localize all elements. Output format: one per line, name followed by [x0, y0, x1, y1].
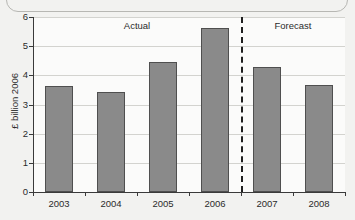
y-axis-tick-label: 2: [0, 129, 28, 139]
y-axis-tick-mark: [29, 75, 33, 76]
x-axis-tick-label: 2004: [85, 199, 137, 209]
bar: [201, 28, 228, 192]
plot-area: [33, 17, 345, 192]
x-axis-tick-mark: [189, 192, 190, 196]
chart-screenshot: £ billion 2006 0123456 20032004200520062…: [0, 0, 355, 220]
bar: [253, 67, 280, 192]
y-axis-tick-label: 3: [0, 100, 28, 110]
x-axis-tick-mark: [85, 192, 86, 196]
gridline: [33, 17, 345, 18]
y-axis-tick-mark: [29, 17, 33, 18]
y-axis-tick-label: 4: [0, 70, 28, 80]
x-axis-tick-label: 2008: [293, 199, 345, 209]
x-axis-tick-label: 2007: [241, 199, 293, 209]
y-axis-tick-mark: [29, 163, 33, 164]
bar: [149, 62, 176, 192]
y-axis-tick-mark: [29, 105, 33, 106]
y-axis-tick-mark: [29, 134, 33, 135]
y-axis-tick-label: 6: [0, 12, 28, 22]
gridline: [33, 134, 345, 135]
y-axis-tick-label: 1: [0, 158, 28, 168]
x-axis-tick-mark: [241, 192, 242, 196]
actual-forecast-divider: [241, 17, 243, 192]
x-axis-tick-label: 2006: [189, 199, 241, 209]
x-axis-tick-mark: [33, 192, 34, 196]
bar-chart: £ billion 2006 0123456 20032004200520062…: [0, 0, 355, 220]
gridline: [33, 46, 345, 47]
gridline: [33, 163, 345, 164]
x-axis-tick-mark: [293, 192, 294, 196]
y-axis-tick-label: 5: [0, 41, 28, 51]
x-axis-tick-mark: [137, 192, 138, 196]
bar: [97, 92, 124, 192]
y-axis-tick-mark: [29, 46, 33, 47]
x-axis-tick-mark: [345, 192, 346, 196]
actual-region-label: Actual: [33, 21, 241, 31]
x-axis-tick-label: 2003: [33, 199, 85, 209]
bar: [305, 85, 332, 192]
y-axis-tick-label: 0: [0, 187, 28, 197]
gridline: [33, 105, 345, 106]
x-axis-tick-label: 2005: [137, 199, 189, 209]
y-axis-line: [33, 17, 34, 192]
forecast-region-label: Forecast: [241, 21, 345, 31]
gridline: [33, 75, 345, 76]
bar: [45, 86, 72, 192]
